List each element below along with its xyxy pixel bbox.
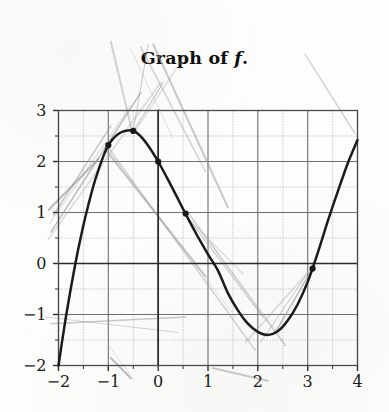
hand-drawn-pencil-lines [46, 42, 355, 381]
x-tick-label: 2 [243, 372, 273, 391]
y-tick-label: 0 [17, 254, 47, 273]
y-tick-label: 1 [17, 203, 47, 222]
y-tick-label: −1 [17, 305, 47, 324]
x-tick-label: 3 [293, 372, 323, 391]
x-tick-label: 1 [193, 372, 223, 391]
y-tick-label: 3 [17, 101, 47, 120]
plot-area [0, 0, 389, 412]
figure-container: Graph of f. −2−101234 3210−1−2 [0, 0, 389, 412]
x-tick-label: 0 [143, 372, 173, 391]
y-tick-label: −2 [17, 356, 47, 375]
x-tick-label: −1 [93, 372, 123, 391]
curve-marked-points [105, 128, 316, 272]
x-tick-label: 4 [343, 372, 373, 391]
x-tick-label: −2 [44, 372, 74, 391]
y-tick-label: 2 [17, 152, 47, 171]
